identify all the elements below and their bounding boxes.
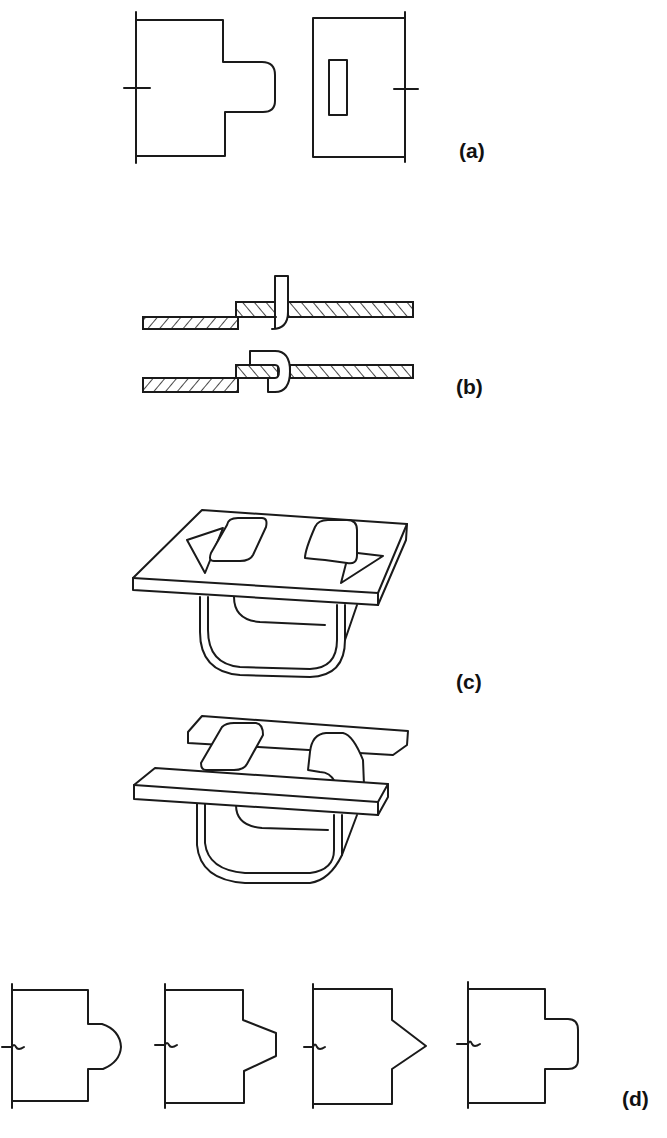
panel-label-c: (c) — [456, 671, 482, 692]
panel-d-pointed-tab — [304, 984, 426, 1108]
panel-label-b: (b) — [456, 376, 483, 397]
panel-label-d: (d) — [622, 1088, 649, 1109]
panel-d-tapered-tab — [155, 984, 276, 1108]
panel-a-tab-strip — [124, 12, 275, 163]
panel-d-rounded-rect-tab — [457, 982, 578, 1108]
panel-d-rounded-tab — [2, 984, 121, 1108]
panel-a-slot-strip — [313, 12, 418, 162]
panel-label-a: (a) — [459, 140, 485, 161]
panel-c-bracket-plate — [133, 510, 407, 677]
slot — [329, 60, 347, 115]
panel-b-tab-bent-up — [143, 276, 413, 329]
diagram-canvas — [0, 0, 667, 1138]
panel-b-tab-folded — [143, 351, 413, 392]
panel-c-bracket-bars — [134, 716, 408, 883]
